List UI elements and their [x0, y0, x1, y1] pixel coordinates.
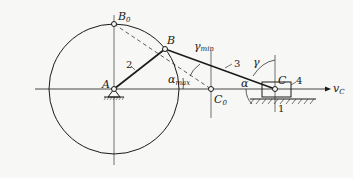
label-link-1: 1 — [278, 103, 284, 114]
gamma-min-arc — [190, 64, 200, 76]
joint-a — [112, 87, 117, 92]
joint-c0 — [209, 87, 214, 92]
label-alpha: α — [241, 77, 249, 90]
link-3-leader — [225, 64, 232, 68]
label-link-3: 3 — [234, 58, 240, 69]
mechanism-diagram: B0 B A C0 C 2 3 4 1 γmin γ α αmax vC — [0, 0, 353, 178]
label-velocity-c: vC — [333, 82, 345, 96]
joint-b0 — [112, 22, 117, 27]
joint-b — [163, 47, 168, 52]
joint-c — [273, 87, 278, 92]
label-alpha-max: αmax — [168, 73, 190, 87]
label-a: A — [101, 78, 110, 91]
crank-link-2 — [114, 49, 165, 89]
label-c0: C0 — [214, 93, 227, 107]
label-c: C — [278, 74, 287, 87]
label-link-2: 2 — [126, 59, 132, 70]
label-b: B — [166, 34, 175, 47]
dashed-b0-c0 — [114, 24, 211, 89]
label-link-4: 4 — [296, 75, 302, 86]
label-b0: B0 — [117, 10, 131, 24]
velocity-arrow-head — [325, 87, 331, 92]
label-gamma-min: γmin — [194, 40, 214, 53]
alpha-arc — [246, 89, 252, 104]
label-gamma: γ — [253, 56, 260, 69]
